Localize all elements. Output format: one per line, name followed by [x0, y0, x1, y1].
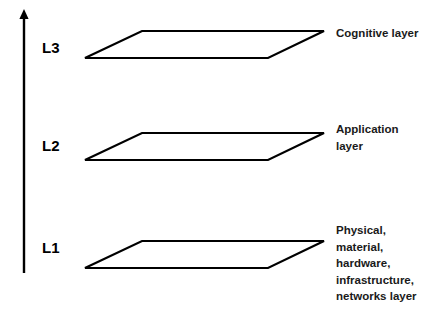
layer-caption-l2: Application layer — [336, 121, 444, 154]
level-label-l2: L2 — [42, 137, 60, 155]
layer-plane-l1 — [78, 234, 330, 274]
layer-plane-l2 — [78, 126, 330, 166]
caption-line: hardware, — [336, 255, 444, 272]
layer-row-l3: L3 Cognitive layer — [0, 0, 446, 100]
layer-row-l2: L2 Application layer — [0, 100, 446, 200]
caption-line: networks layer — [336, 288, 444, 305]
caption-line: material, — [336, 239, 444, 256]
caption-line: Cognitive layer — [336, 25, 444, 42]
caption-line: infrastructure, — [336, 272, 444, 289]
level-label-l3: L3 — [42, 39, 60, 57]
layered-architecture-diagram: L3 Cognitive layer L2 Application layer … — [0, 0, 446, 311]
layer-plane-l3 — [78, 24, 330, 64]
layer-caption-l1: Physical, material, hardware, infrastruc… — [336, 222, 444, 305]
caption-line: layer — [336, 138, 444, 155]
caption-line: Physical, — [336, 222, 444, 239]
layer-caption-l3: Cognitive layer — [336, 25, 444, 42]
level-label-l1: L1 — [42, 239, 60, 257]
caption-line: Application — [336, 121, 444, 138]
layer-row-l1: L1 Physical, material, hardware, infrast… — [0, 205, 446, 311]
